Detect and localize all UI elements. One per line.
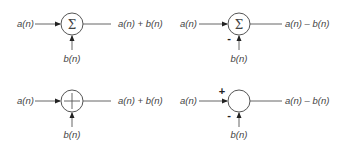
- input-b-label: b(n): [64, 53, 81, 64]
- minus-sign: -: [227, 109, 231, 121]
- plus-sign: +: [219, 85, 225, 97]
- block-empty-subtract: a(n) + a(n) – b(n) - b(n): [180, 85, 329, 140]
- input-b-label: b(n): [231, 53, 248, 64]
- block-plus-add: a(n) a(n) + b(n) b(n): [17, 90, 163, 140]
- input-a-label: a(n): [17, 18, 34, 29]
- output-label: a(n) + b(n): [118, 18, 163, 29]
- block-sigma-add: a(n) Σ a(n) + b(n) b(n): [17, 13, 163, 64]
- summing-junction-circle: [228, 90, 250, 112]
- input-b-label: b(n): [64, 129, 81, 140]
- block-sigma-subtract: a(n) Σ a(n) – b(n) - b(n): [180, 13, 329, 64]
- input-a-label: a(n): [180, 18, 197, 29]
- sigma-icon: Σ: [235, 18, 243, 32]
- input-a-label: a(n): [17, 95, 34, 106]
- sigma-icon: Σ: [68, 18, 76, 32]
- minus-sign: -: [227, 32, 231, 44]
- input-b-label: b(n): [231, 129, 248, 140]
- input-a-label: a(n): [180, 95, 197, 106]
- summing-junction-diagram: a(n) Σ a(n) + b(n) b(n) a(n) Σ a(n) – b(…: [0, 0, 340, 143]
- output-label: a(n) – b(n): [285, 18, 329, 29]
- output-label: a(n) – b(n): [285, 95, 329, 106]
- output-label: a(n) + b(n): [118, 95, 163, 106]
